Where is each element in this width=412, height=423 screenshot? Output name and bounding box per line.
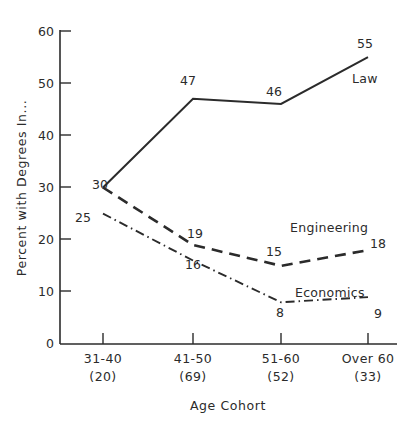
value-label-law-2: 46 [266, 84, 282, 99]
y-tick-label-30: 30 [38, 180, 54, 195]
value-label-law-0: 30 [92, 177, 108, 192]
y-axis: 60 50 40 30 20 10 0 [38, 24, 71, 351]
value-label-economics-2: 8 [276, 305, 284, 320]
y-tick-label-10: 10 [38, 284, 54, 299]
chart-canvas: 60 50 40 30 20 10 0 Percent with Degrees… [0, 0, 412, 423]
value-label-engineering-3: 18 [370, 236, 386, 251]
value-label-engineering-2: 15 [266, 244, 282, 259]
y-tick-label-60: 60 [38, 24, 54, 39]
y-tick-label-50: 50 [38, 76, 54, 91]
x-sublabel-1: (69) [179, 369, 206, 384]
x-sublabel-2: (52) [267, 369, 294, 384]
x-tick-label-3: Over 60 [342, 351, 395, 366]
value-label-law-3: 55 [357, 36, 373, 51]
line-chart: 60 50 40 30 20 10 0 Percent with Degrees… [0, 0, 412, 423]
y-axis-title: Percent with Degrees In... [14, 100, 29, 277]
y-tick-label-40: 40 [38, 128, 54, 143]
y-tick-label-0: 0 [46, 336, 54, 351]
value-label-engineering-1: 19 [187, 226, 203, 241]
value-label-law-1: 47 [180, 73, 196, 88]
series-label-economics: Economics [295, 285, 365, 300]
x-axis: 31-40 41-50 51-60 Over 60 (20) (69) (52)… [60, 333, 397, 384]
series-label-law: Law [352, 71, 378, 86]
value-label-economics-3: 9 [374, 306, 382, 321]
x-tick-label-0: 31-40 [84, 351, 122, 366]
x-tick-label-2: 51-60 [262, 351, 300, 366]
x-sublabel-3: (33) [354, 369, 381, 384]
series-label-engineering: Engineering [290, 220, 368, 235]
x-axis-title: Age Cohort [190, 398, 266, 413]
value-label-economics-0: 25 [75, 210, 91, 225]
value-label-economics-1: 16 [185, 257, 201, 272]
y-tick-label-20: 20 [38, 232, 54, 247]
x-tick-label-1: 41-50 [174, 351, 212, 366]
series-line-law [103, 57, 368, 187]
x-sublabel-0: (20) [89, 369, 116, 384]
